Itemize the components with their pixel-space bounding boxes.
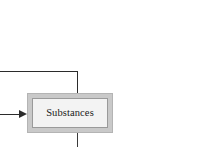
arrowhead-icon (19, 110, 27, 118)
edge-top-vertical-segment (77, 71, 78, 94)
edge-outgoing-line (77, 133, 78, 147)
diagram-canvas: Substances (0, 0, 203, 147)
node-substances-inner: Substances (32, 98, 108, 128)
node-substances[interactable]: Substances (27, 93, 113, 133)
node-substances-label: Substances (46, 107, 94, 119)
edge-top-horizontal-segment (0, 71, 78, 72)
